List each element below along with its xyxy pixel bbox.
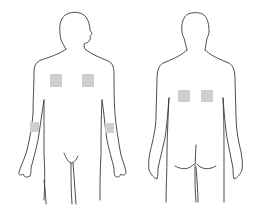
- back-buttocks-outline: [175, 145, 216, 202]
- front-torso-left-outline: [19, 49, 66, 177]
- patch-right-upper-arm: [30, 122, 39, 132]
- front-torso-right-inner: [100, 100, 102, 200]
- patch-left-upper-arm: [105, 123, 114, 133]
- patch-upper-right-chest: [50, 74, 62, 87]
- patch-upper-back-left: [178, 90, 190, 102]
- patch-upper-back-right: [201, 90, 213, 102]
- patch-sites: [30, 74, 213, 133]
- body-illustration: [0, 0, 272, 218]
- back-torso-left-outline: [149, 50, 187, 179]
- front-torso-right-outline: [86, 50, 126, 177]
- back-head-outline: [182, 13, 209, 50]
- body-diagram: Front view of body Back view of body: [0, 0, 272, 218]
- front-figure: [19, 12, 126, 204]
- back-torso-right-inner: [223, 98, 224, 202]
- patch-upper-left-chest: [82, 74, 94, 87]
- back-figure: [149, 13, 243, 202]
- front-head-outline: [60, 12, 92, 50]
- front-groin-outline: [64, 153, 78, 204]
